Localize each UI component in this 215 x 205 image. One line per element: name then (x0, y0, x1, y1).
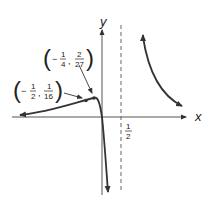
svg-text:1: 1 (47, 82, 52, 91)
curve-center-branch (94, 98, 108, 192)
asymptote-label-num: 1 (126, 122, 131, 131)
svg-text:4: 4 (61, 60, 66, 69)
svg-text:(: ( (43, 44, 51, 71)
svg-text:1: 1 (31, 82, 36, 91)
svg-text:): ) (86, 44, 94, 71)
svg-text:(: ( (13, 76, 21, 103)
label-inflection: ( − 1 2 , 1 16 ) (13, 76, 63, 103)
pointer-inflection (64, 93, 82, 98)
point-local-max (92, 96, 96, 100)
svg-text:1: 1 (61, 50, 66, 59)
svg-text:,: , (68, 56, 71, 66)
label-local-max: ( − 1 4 , 2 27 ) (43, 44, 94, 71)
point-inflection (84, 99, 88, 103)
svg-text:27: 27 (75, 60, 84, 69)
function-graph: y x 1 2 ( − 1 4 , 2 27 ) ( − 1 2 , 1 16 … (0, 0, 215, 205)
curve-right-branch (143, 37, 182, 106)
svg-text:−: − (21, 86, 26, 96)
svg-text:2: 2 (31, 92, 36, 101)
x-axis-label: x (194, 109, 202, 124)
svg-text:−: − (52, 54, 57, 64)
asymptote-label-den: 2 (126, 132, 131, 141)
svg-text:2: 2 (77, 50, 82, 59)
svg-text:16: 16 (44, 92, 53, 101)
y-axis-label: y (99, 14, 108, 29)
svg-text:,: , (38, 88, 41, 98)
svg-text:): ) (55, 76, 63, 103)
